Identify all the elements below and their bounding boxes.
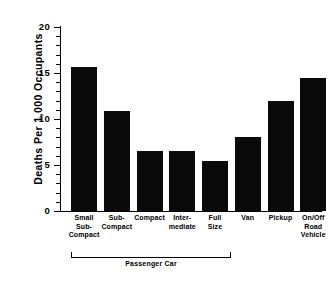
y-tick-label: 5 xyxy=(10,159,50,170)
y-tick-minor xyxy=(56,147,60,148)
y-tick-major xyxy=(54,165,60,166)
y-tick-minor xyxy=(56,174,60,175)
bar-chart: Deaths Per 1,000 Occupants 05101520 Smal… xyxy=(0,0,332,285)
category-label-line: Vehicle xyxy=(287,231,332,240)
y-tick-minor xyxy=(56,91,60,92)
bar xyxy=(137,151,163,211)
category-label-line: Compact xyxy=(58,231,110,240)
y-tick-label: 20 xyxy=(10,21,50,32)
bar xyxy=(202,161,228,211)
y-tick-minor xyxy=(56,82,60,83)
category-label-line: Road xyxy=(287,223,332,232)
category-label-line: Size xyxy=(189,223,241,232)
y-tick-major xyxy=(54,119,60,120)
y-tick-minor xyxy=(56,110,60,111)
category-label-line: On/Off xyxy=(287,214,332,223)
y-tick-major xyxy=(54,73,60,74)
y-tick-minor xyxy=(56,64,60,65)
y-tick-label: 15 xyxy=(10,67,50,78)
y-axis-line xyxy=(60,26,61,212)
y-tick-label: 10 xyxy=(10,113,50,124)
y-tick-major xyxy=(54,211,60,212)
y-tick-label: 0 xyxy=(10,205,50,216)
y-tick-minor xyxy=(56,101,60,102)
y-axis-title: Deaths Per 1,000 Occupants xyxy=(32,9,44,209)
bar xyxy=(169,151,195,211)
bar xyxy=(71,67,97,211)
y-tick-minor xyxy=(56,128,60,129)
bar xyxy=(268,101,294,211)
y-tick-minor xyxy=(56,45,60,46)
group-bracket xyxy=(71,252,231,258)
group-label: Passenger Car xyxy=(71,260,231,267)
bar xyxy=(300,78,326,211)
y-tick-minor xyxy=(56,193,60,194)
y-tick-minor xyxy=(56,183,60,184)
y-tick-minor xyxy=(56,137,60,138)
y-tick-minor xyxy=(56,202,60,203)
y-tick-minor xyxy=(56,55,60,56)
y-tick-major xyxy=(54,27,60,28)
bar xyxy=(235,137,261,211)
y-tick-minor xyxy=(56,156,60,157)
x-axis-line xyxy=(60,211,322,212)
y-tick-minor xyxy=(56,36,60,37)
bar xyxy=(104,111,130,211)
x-axis-category-label: On/OffRoadVehicle xyxy=(287,214,332,240)
category-label-line: Compact xyxy=(91,223,143,232)
